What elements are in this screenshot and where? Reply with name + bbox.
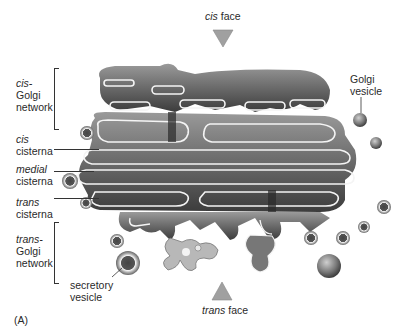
trans-face-text: face — [225, 304, 248, 316]
cis-face-text: face — [218, 10, 241, 22]
trans-golgi-network-label: trans- Golgi network — [16, 233, 53, 269]
cis-golgi-network-line1: cis- — [16, 77, 53, 89]
cis-face-italic: cis — [205, 10, 218, 22]
trans-cisterna-line1: trans — [16, 196, 53, 208]
trans-cisterna-leader — [54, 198, 99, 199]
golgi-vesicle — [353, 113, 367, 127]
golgi-vesicle-line1: Golgi — [350, 73, 382, 85]
trans-face-label: trans face — [202, 304, 248, 316]
trans-cisterna-line2: cisterna — [16, 208, 53, 220]
trans-face-triangle-icon — [212, 282, 232, 300]
golgi-apparatus-illustration — [0, 0, 408, 327]
cis-cisterna-line2: cisterna — [16, 145, 53, 157]
cis-golgi-network-line2: Golgi — [16, 89, 53, 101]
cis-cisterna-label: cis cisterna — [16, 133, 53, 157]
secretory-vesicle — [116, 251, 140, 275]
cis-face-triangle-icon — [213, 30, 233, 47]
cis-golgi-network-label: cis- Golgi network — [16, 77, 53, 113]
cisternae-stack-shape — [78, 112, 356, 220]
cis-golgi-network-shape — [99, 64, 330, 112]
secretory-vesicle-label: secretory vesicle — [70, 279, 113, 303]
cis-golgi-network-bracket — [54, 68, 59, 130]
trans-golgi-network-line3: network — [16, 257, 53, 269]
cis-face-label: cis face — [205, 10, 241, 22]
cis-cisterna-line1: cis — [16, 133, 53, 145]
cis-golgi-network-line3: network — [16, 101, 53, 113]
panel-label: (A) — [14, 314, 28, 326]
golgi-vesicle-line2: vesicle — [350, 85, 382, 97]
trans-golgi-network-line1: trans- — [16, 233, 53, 245]
medial-cisterna-line1: medial — [16, 163, 53, 175]
medial-cisterna-label: medial cisterna — [16, 163, 53, 187]
cis-cisterna-leader — [54, 149, 99, 150]
medial-cisterna-line2: cisterna — [16, 175, 53, 187]
golgi-vesicle-label: Golgi vesicle — [350, 73, 382, 97]
trans-golgi-network-line2: Golgi — [16, 245, 53, 257]
secretory-vesicle-line1: secretory — [70, 279, 113, 291]
secretory-vesicle-line2: vesicle — [70, 291, 113, 303]
trans-face-italic: trans — [202, 304, 225, 316]
trans-cisterna-label: trans cisterna — [16, 196, 53, 220]
trans-golgi-network-shape — [119, 212, 330, 272]
trans-golgi-network-bracket — [54, 222, 59, 284]
medial-cisterna-leader — [54, 171, 94, 172]
